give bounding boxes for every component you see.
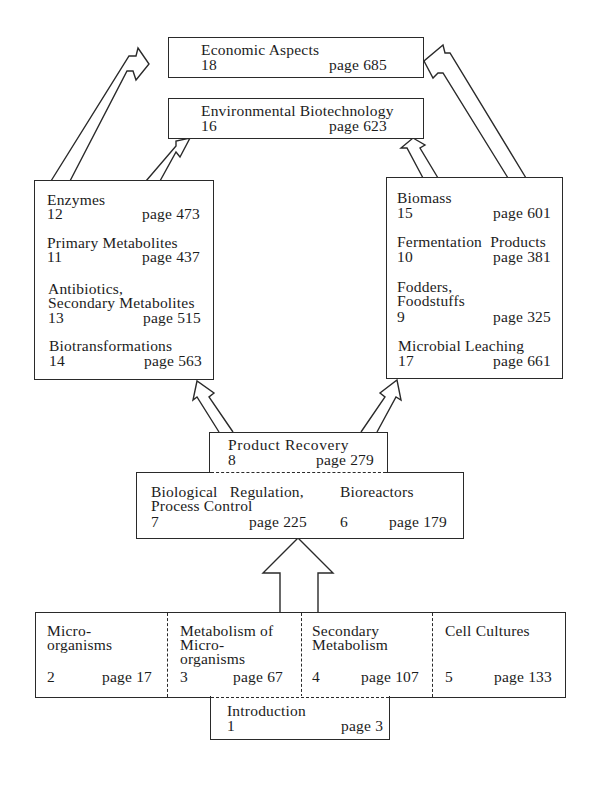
antibiotics-page: page 515 bbox=[143, 310, 201, 325]
secondary-metabolism-title-line2: Metabolism bbox=[312, 637, 388, 652]
bioreactors-chapter: 6 bbox=[340, 514, 348, 529]
arrow-recovery-to-right bbox=[361, 380, 401, 432]
regulation-bioreactors-box: Biological Regulation, Process Control 7… bbox=[136, 472, 464, 539]
introduction-chapter: 1 bbox=[227, 718, 235, 733]
arrow-left-to-economic bbox=[51, 48, 149, 181]
enzymes-chapter: 12 bbox=[47, 206, 63, 221]
recovery-divider-dashed bbox=[211, 472, 386, 473]
biomass-page: page 601 bbox=[493, 205, 551, 220]
microbial-leaching-page: page 661 bbox=[493, 353, 551, 368]
cell-cultures-title: Cell Cultures bbox=[445, 623, 530, 638]
environmental-biotech-box: Environmental Biotechnology 16 page 623 bbox=[168, 98, 424, 139]
strip-divider-1 bbox=[167, 613, 168, 697]
regulation-title-line2: Process Control bbox=[151, 498, 253, 513]
microorganisms-chapter: 2 bbox=[47, 669, 55, 684]
product-recovery-box: Product Recovery 8 page 279 bbox=[209, 432, 388, 474]
regulation-chapter: 7 bbox=[151, 514, 159, 529]
economic-aspects-title: Economic Aspects bbox=[201, 42, 319, 57]
arrow-recovery-to-left bbox=[193, 381, 233, 432]
introduction-page: page 3 bbox=[341, 718, 383, 733]
strip-divider-2 bbox=[301, 613, 302, 697]
environmental-biotech-title: Environmental Biotechnology bbox=[201, 103, 394, 118]
cell-cultures-chapter: 5 bbox=[445, 669, 453, 684]
economic-aspects-box: Economic Aspects 18 page 685 bbox=[168, 37, 424, 78]
product-recovery-page: page 279 bbox=[316, 452, 374, 467]
bioreactors-title: Bioreactors bbox=[340, 484, 414, 499]
microorganisms-page: page 17 bbox=[102, 669, 152, 684]
metabolism-page: page 67 bbox=[233, 669, 283, 684]
product-recovery-title: Product Recovery bbox=[228, 437, 349, 452]
arrow-bottom-to-middle bbox=[263, 538, 333, 612]
economic-aspects-chapter: 18 bbox=[201, 57, 217, 72]
arrow-left-to-environmental bbox=[146, 138, 190, 181]
product-recovery-chapter: 8 bbox=[228, 452, 236, 467]
microbial-leaching-chapter: 17 bbox=[398, 353, 414, 368]
strip-divider-3 bbox=[432, 613, 433, 697]
fermentation-products-page: page 381 bbox=[493, 249, 551, 264]
biomass-chapter: 15 bbox=[397, 205, 413, 220]
introduction-divider bbox=[211, 697, 389, 698]
antibiotics-title-line2: Secondary Metabolites bbox=[48, 295, 195, 310]
primary-metabolites-page: page 437 bbox=[142, 249, 200, 264]
cell-cultures-page: page 133 bbox=[494, 669, 552, 684]
introduction-box: Introduction 1 page 3 bbox=[210, 696, 390, 740]
secondary-metabolism-chapter: 4 bbox=[312, 669, 320, 684]
metabolism-chapter: 3 bbox=[180, 669, 188, 684]
metabolism-title-line3: organisms bbox=[180, 651, 245, 666]
arrow-right-to-environmental bbox=[401, 138, 438, 178]
antibiotics-chapter: 13 bbox=[48, 310, 64, 325]
fodders-title-line2: Foodstuffs bbox=[397, 293, 465, 308]
arrow-right-to-economic bbox=[424, 45, 526, 178]
products-left-box: Enzymes 12 page 473 Primary Metabolites … bbox=[34, 180, 214, 380]
environmental-biotech-page: page 623 bbox=[329, 118, 387, 133]
enzymes-page: page 473 bbox=[142, 206, 200, 221]
environmental-biotech-chapter: 16 bbox=[201, 118, 217, 133]
biotransformations-page: page 563 bbox=[144, 353, 202, 368]
primary-metabolites-chapter: 11 bbox=[47, 249, 62, 264]
fermentation-products-chapter: 10 bbox=[397, 249, 413, 264]
introduction-title: Introduction bbox=[227, 703, 306, 718]
fodders-chapter: 9 bbox=[397, 309, 405, 324]
biotransformations-title: Biotransformations bbox=[49, 338, 172, 353]
regulation-page: page 225 bbox=[249, 514, 307, 529]
economic-aspects-page: page 685 bbox=[329, 57, 387, 72]
fodders-page: page 325 bbox=[493, 309, 551, 324]
products-right-box: Biomass 15 page 601 Fermentation Product… bbox=[386, 177, 563, 379]
biotransformations-chapter: 14 bbox=[49, 353, 65, 368]
fermentation-products-title: Fermentation Products bbox=[397, 234, 546, 249]
microbial-leaching-title: Microbial Leaching bbox=[398, 338, 524, 353]
microorganisms-title-line2: organisms bbox=[47, 637, 112, 652]
biomass-title: Biomass bbox=[397, 190, 452, 205]
bioreactors-page: page 179 bbox=[389, 514, 447, 529]
secondary-metabolism-page: page 107 bbox=[361, 669, 419, 684]
